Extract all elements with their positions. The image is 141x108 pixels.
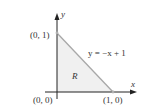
point-label-0-1: (0, 1) [30, 30, 50, 40]
point-0-1 [56, 32, 59, 35]
y-axis-arrow-icon [55, 13, 60, 20]
x-axis-label: x [130, 79, 135, 89]
y-axis-label: y [60, 9, 65, 19]
point-label-0-0: (0, 0) [33, 95, 53, 105]
region-label: R [71, 71, 78, 81]
region-diagram: y x (0, 1) (0, 0) (1, 0) y = −x + 1 R [0, 0, 141, 108]
line-equation-label: y = −x + 1 [88, 48, 126, 58]
point-label-1-0: (1, 0) [103, 95, 123, 105]
point-1-0 [112, 91, 115, 94]
x-axis-arrow-icon [130, 90, 137, 95]
